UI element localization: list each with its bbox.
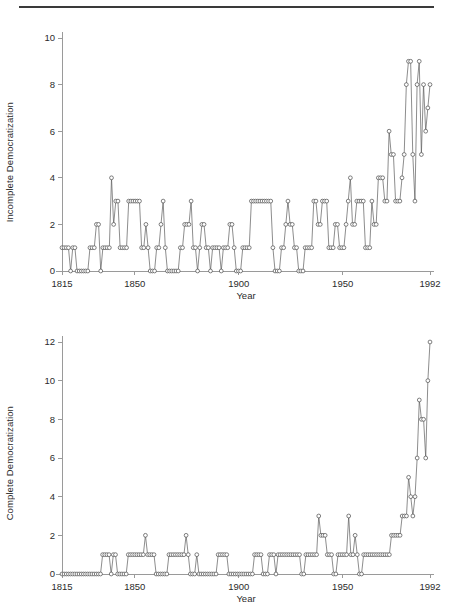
data-point: [411, 153, 415, 157]
chart-svg-incomplete: 024681018151850190019501992Year: [18, 16, 453, 308]
y-tick-label: 0: [50, 265, 55, 276]
data-point: [125, 246, 129, 250]
data-point: [157, 246, 161, 250]
data-point: [317, 514, 321, 518]
data-point: [271, 246, 275, 250]
data-point: [407, 475, 411, 479]
data-point: [198, 246, 202, 250]
x-tick-label: 1850: [124, 581, 145, 592]
data-point: [181, 246, 185, 250]
data-point: [146, 246, 150, 250]
data-point: [345, 553, 349, 557]
chart-panel-complete-democratization: Complete Democratization 024681012181518…: [0, 316, 453, 611]
data-point: [342, 246, 346, 250]
x-tick-label: 1900: [228, 278, 249, 289]
data-point: [419, 153, 423, 157]
data-point: [368, 246, 372, 250]
data-point: [144, 223, 148, 227]
data-point: [114, 553, 118, 557]
data-point: [404, 83, 408, 87]
data-point: [269, 199, 273, 203]
data-point: [107, 553, 111, 557]
y-tick-label: 0: [50, 568, 55, 579]
data-point: [209, 269, 213, 273]
plot-area-complete: 02468101218151850190019501992Year: [18, 316, 453, 611]
data-point: [239, 269, 243, 273]
chart-panel-incomplete-democratization: Incomplete Democratization 0246810181518…: [0, 16, 453, 308]
data-point: [426, 379, 430, 383]
data-point: [163, 246, 167, 250]
data-point: [159, 223, 163, 227]
data-point: [353, 533, 357, 537]
x-tick-label: 1950: [332, 278, 353, 289]
data-point: [330, 553, 334, 557]
data-point: [381, 176, 385, 180]
data-point: [116, 199, 120, 203]
data-point: [219, 269, 223, 273]
plot-area-incomplete: 024681018151850190019501992Year: [18, 16, 453, 308]
data-point: [97, 223, 101, 227]
data-point: [206, 246, 210, 250]
data-point: [422, 417, 426, 421]
header-divider: [19, 6, 434, 8]
data-point: [424, 456, 428, 460]
y-axis-title-text: Incomplete Democratization: [4, 102, 15, 222]
data-point: [417, 398, 421, 402]
data-point: [153, 269, 157, 273]
x-tick-label: 1815: [51, 581, 72, 592]
y-tick-label: 6: [50, 452, 55, 463]
data-point: [266, 572, 270, 576]
data-point: [398, 199, 402, 203]
series-markers: [60, 59, 432, 273]
data-point: [392, 153, 396, 157]
series-markers: [60, 340, 432, 576]
y-tick-label: 4: [50, 172, 55, 183]
data-point: [355, 553, 359, 557]
data-point: [298, 553, 302, 557]
data-point: [400, 176, 404, 180]
y-tick-label: 8: [50, 414, 55, 425]
data-point: [351, 553, 355, 557]
data-point: [67, 246, 71, 250]
data-point: [187, 223, 191, 227]
x-tick-label: 1815: [51, 278, 72, 289]
data-point: [259, 553, 263, 557]
y-axis-title-text: Complete Democratization: [4, 406, 15, 520]
y-tick-label: 12: [44, 336, 55, 347]
data-point: [277, 269, 281, 273]
data-point: [225, 553, 229, 557]
data-point: [331, 246, 335, 250]
data-point: [274, 572, 278, 576]
data-point: [86, 269, 90, 273]
data-point: [336, 223, 340, 227]
data-point: [411, 514, 415, 518]
data-point: [422, 83, 426, 87]
data-point: [195, 553, 199, 557]
data-point: [193, 572, 197, 576]
data-point: [284, 223, 288, 227]
data-point: [424, 129, 428, 133]
data-point: [110, 176, 114, 180]
data-point: [415, 456, 419, 460]
data-point: [152, 553, 156, 557]
data-point: [286, 199, 290, 203]
data-point: [426, 106, 430, 110]
y-tick-label: 2: [50, 530, 55, 541]
data-point: [186, 553, 190, 557]
data-point: [318, 223, 322, 227]
data-point: [387, 553, 391, 557]
data-point: [402, 153, 406, 157]
x-tick-label: 1950: [332, 581, 353, 592]
data-point: [428, 340, 432, 344]
data-point: [325, 199, 329, 203]
data-point: [184, 533, 188, 537]
y-tick-label: 6: [50, 126, 55, 137]
y-tick-label: 10: [44, 375, 55, 386]
x-axis-title: Year: [236, 593, 255, 604]
data-point: [347, 514, 351, 518]
data-point: [214, 572, 218, 576]
data-point: [385, 199, 389, 203]
data-point: [217, 246, 221, 250]
data-point: [361, 199, 365, 203]
data-point: [112, 223, 116, 227]
